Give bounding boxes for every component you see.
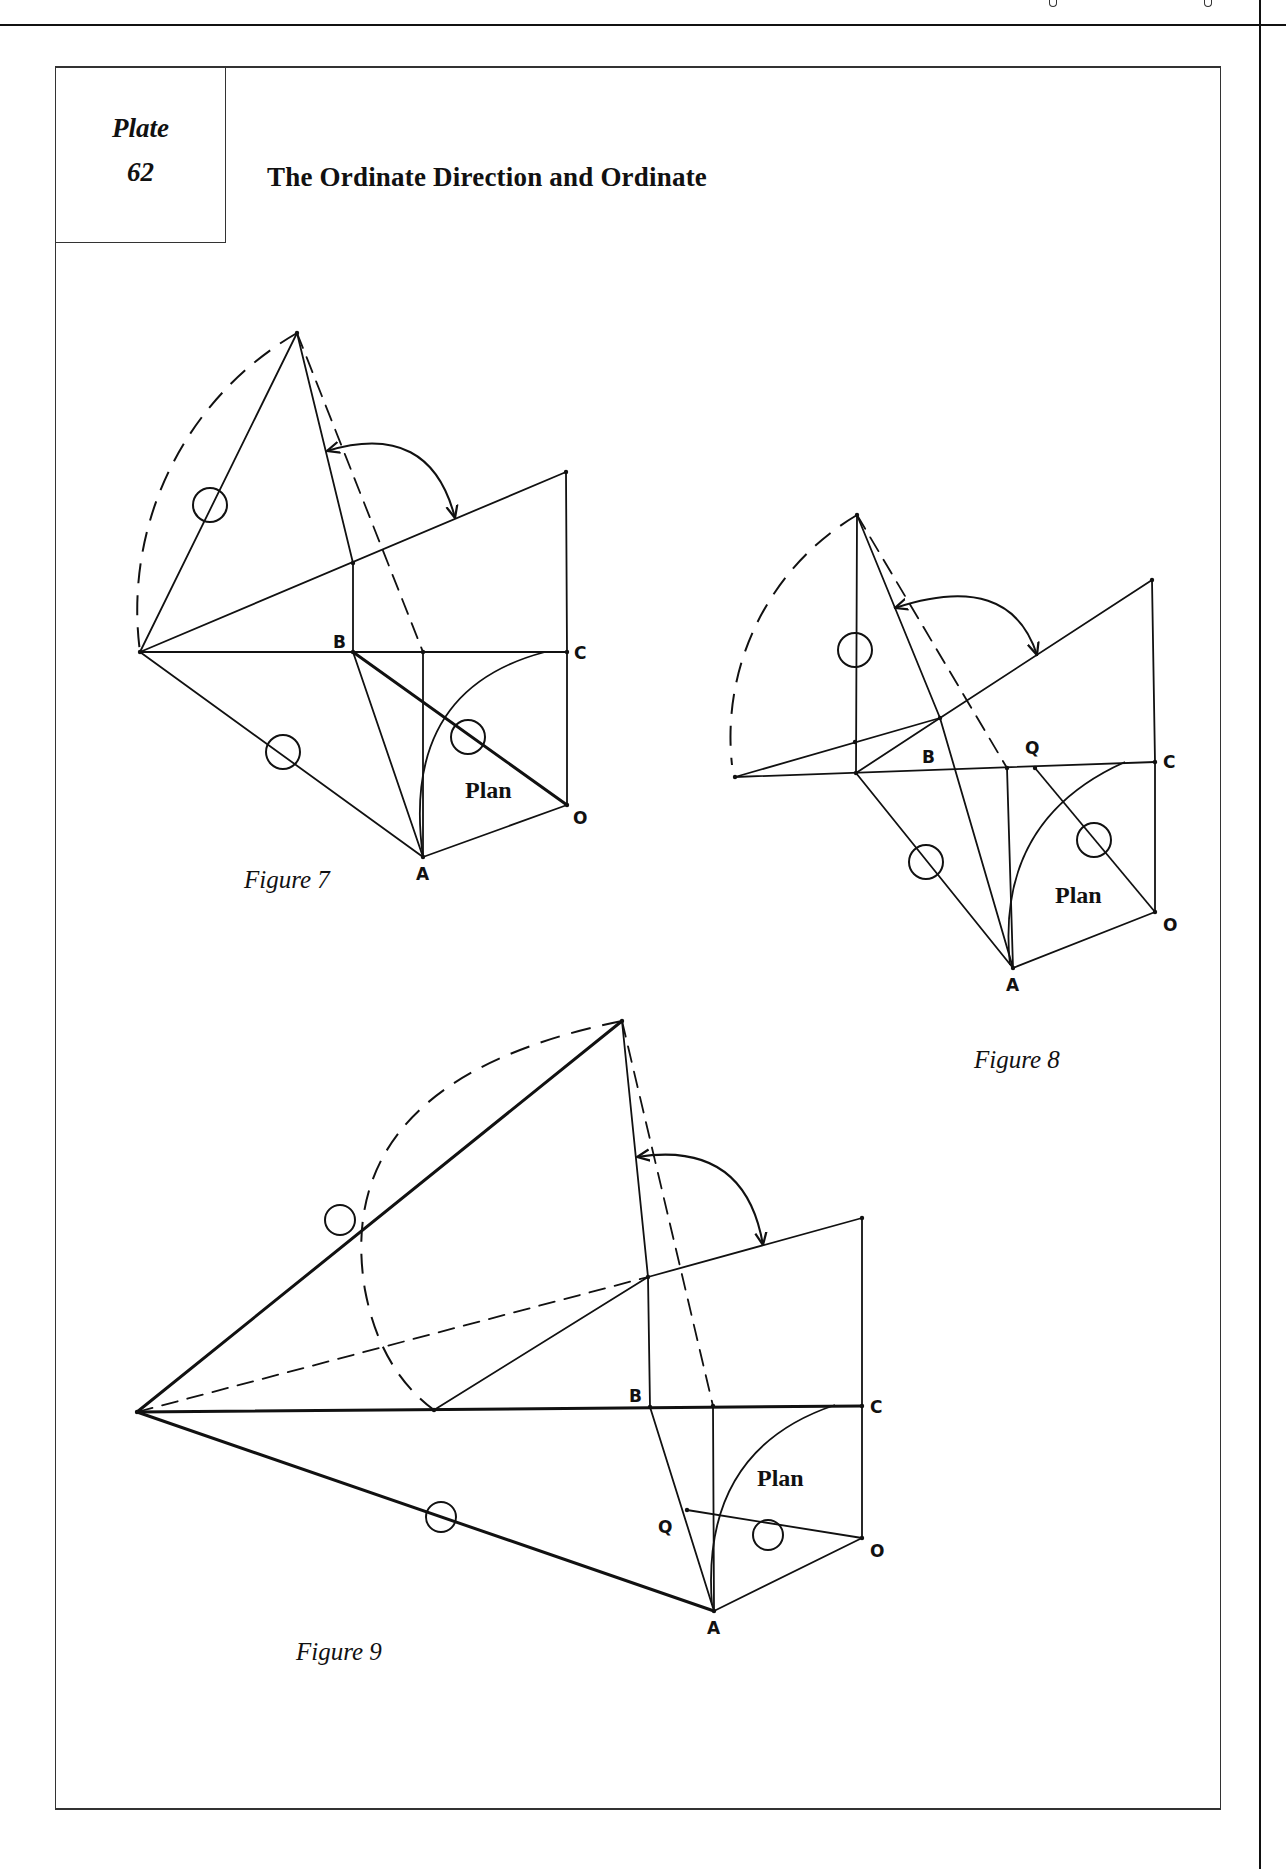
point-label-c: C — [1163, 752, 1175, 772]
figure-9-drawing — [135, 1019, 864, 1613]
construction-line — [648, 1277, 650, 1407]
equal-length-circle-mark — [193, 488, 227, 522]
equal-length-circle-mark — [838, 633, 872, 667]
vertex-dot — [351, 650, 355, 654]
vertex-dot — [855, 513, 859, 517]
vertex-dot — [648, 1405, 652, 1409]
construction-line — [735, 718, 940, 777]
construction-line — [856, 773, 1013, 968]
plan-label: Plan — [1055, 882, 1102, 909]
vertex-dot — [733, 775, 737, 779]
vertex-dot — [646, 1275, 650, 1279]
construction-line — [648, 1218, 862, 1277]
angle-arrow-arc — [637, 1155, 763, 1245]
vertex-dot — [1153, 760, 1157, 764]
construction-line — [140, 333, 297, 652]
plan-label: Plan — [757, 1465, 804, 1492]
figure-caption: Figure 9 — [296, 1638, 382, 1666]
construction-line — [713, 1406, 714, 1611]
hip-line — [137, 1406, 862, 1412]
plan-arc — [420, 652, 545, 857]
hip-line — [137, 1412, 714, 1611]
construction-line — [714, 1538, 862, 1611]
equal-length-circle-mark — [909, 845, 943, 879]
vertex-dot — [1033, 766, 1037, 770]
vertex-dot — [711, 1404, 715, 1408]
vertex-dot — [685, 1508, 689, 1512]
construction-line — [423, 805, 567, 857]
vertex-dot — [432, 1408, 436, 1412]
point-label-a: A — [1006, 975, 1019, 995]
construction-line — [857, 515, 940, 718]
construction-line — [1152, 580, 1155, 762]
rotation-arc-dashed — [361, 1021, 622, 1410]
construction-line — [297, 333, 353, 563]
plan-arc — [711, 1405, 835, 1605]
rotation-arc-dashed — [730, 515, 857, 765]
equal-length-circle-mark — [266, 735, 300, 769]
vertex-dot — [421, 650, 425, 654]
point-label-c: C — [870, 1397, 882, 1417]
construction-line — [940, 580, 1152, 718]
vertex-dot — [1011, 966, 1015, 970]
construction-line — [434, 1277, 648, 1410]
plan-arc — [1008, 762, 1125, 965]
construction-line — [140, 652, 423, 857]
construction-line — [735, 762, 1155, 777]
construction-line — [1013, 912, 1155, 968]
point-label-q: Q — [1025, 738, 1039, 758]
point-label-b: B — [629, 1386, 642, 1406]
hip-line — [353, 652, 567, 805]
construction-line — [940, 718, 1013, 968]
construction-line — [622, 1021, 648, 1277]
construction-line — [353, 652, 423, 857]
vertex-dot — [565, 803, 569, 807]
figure-caption: Figure 7 — [244, 866, 330, 894]
construction-line — [566, 472, 567, 652]
angle-arrow-arc — [895, 596, 1037, 655]
vertex-dot — [620, 1019, 624, 1023]
vertex-dot — [351, 561, 355, 565]
point-label-o: O — [870, 1541, 884, 1561]
vertex-dot — [565, 650, 569, 654]
vertex-dot — [1150, 578, 1154, 582]
point-label-o: O — [1163, 915, 1177, 935]
equal-length-circle-mark — [325, 1205, 355, 1235]
plan-label: Plan — [465, 777, 512, 804]
vertex-dot — [853, 740, 857, 744]
construction-line — [650, 1407, 714, 1611]
construction-line — [856, 515, 857, 773]
point-label-a: A — [416, 864, 429, 884]
equal-length-circle-mark — [753, 1520, 783, 1550]
vertex-dot — [854, 771, 858, 775]
vertex-dot — [295, 331, 299, 335]
vertex-dot — [421, 855, 425, 859]
vertex-dot — [1153, 910, 1157, 914]
dashed-line — [137, 1277, 648, 1412]
vertex-dot — [860, 1536, 864, 1540]
point-label-b: B — [922, 747, 935, 767]
vertex-dot — [712, 1609, 716, 1613]
point-label-c: C — [574, 643, 586, 663]
dashed-line — [297, 333, 423, 652]
vertex-dot — [564, 470, 568, 474]
vertex-dot — [138, 650, 142, 654]
equal-length-circle-mark — [451, 720, 485, 754]
hip-line — [137, 1021, 622, 1412]
geometry-diagram — [0, 0, 1286, 1869]
point-label-a: A — [707, 1618, 720, 1638]
angle-arrow-arc — [327, 444, 455, 518]
dashed-line — [857, 515, 1007, 768]
vertex-dot — [938, 716, 942, 720]
vertex-dot — [860, 1216, 864, 1220]
point-label-q: Q — [658, 1517, 672, 1537]
point-label-b: B — [333, 632, 346, 652]
point-label-o: O — [573, 808, 587, 828]
vertex-dot — [135, 1410, 139, 1414]
dashed-line — [622, 1021, 713, 1406]
figure-caption: Figure 8 — [974, 1046, 1060, 1074]
vertex-dot — [1005, 766, 1009, 770]
vertex-dot — [860, 1404, 864, 1408]
